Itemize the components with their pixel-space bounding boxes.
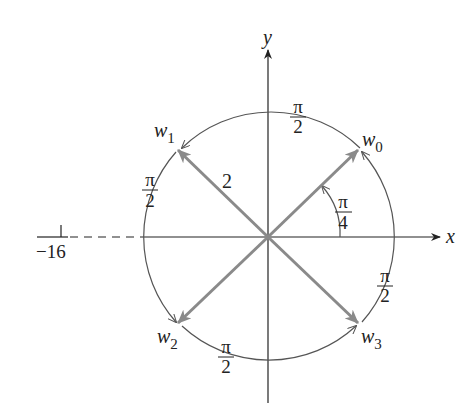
arc-label-top: π 2 xyxy=(290,96,306,137)
tick-label: −16 xyxy=(36,241,66,262)
y-axis-label: y xyxy=(261,26,272,49)
root-label-w1: w1 xyxy=(154,119,175,146)
svg-text:π: π xyxy=(380,265,390,286)
arc-w0-w1 xyxy=(182,112,360,148)
arc-label-bottom: π 2 xyxy=(218,336,234,377)
roots-diagram: x y −16 w0 w1 w2 w3 2 π 4 π 2 π 2 π 2 π … xyxy=(0,0,474,418)
root-label-w3: w3 xyxy=(361,325,382,352)
arc-label-right: π 2 xyxy=(377,265,393,306)
svg-text:π: π xyxy=(145,169,155,190)
svg-text:π: π xyxy=(338,191,348,212)
svg-text:π: π xyxy=(221,336,231,357)
arc-w2-w3 xyxy=(182,326,356,360)
vector-w2 xyxy=(178,237,268,323)
arc-label-left: π 2 xyxy=(142,169,158,211)
x-axis-label: x xyxy=(445,225,455,247)
root-label-w2: w2 xyxy=(157,325,178,352)
svg-text:2: 2 xyxy=(221,356,231,377)
svg-text:4: 4 xyxy=(338,212,348,233)
svg-text:π: π xyxy=(293,96,303,117)
root-label-w0: w0 xyxy=(362,128,383,155)
radius-label: 2 xyxy=(222,170,232,192)
svg-text:2: 2 xyxy=(293,116,303,137)
svg-text:2: 2 xyxy=(380,285,390,306)
angle-label: π 4 xyxy=(335,191,352,233)
vector-w3 xyxy=(268,237,358,323)
svg-text:2: 2 xyxy=(145,190,155,211)
vector-w1 xyxy=(178,150,268,237)
